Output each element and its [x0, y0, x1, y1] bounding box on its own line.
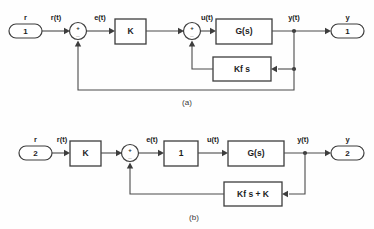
- wire-tap-to-feedback-b: [289, 153, 305, 194]
- inner-sum-a-plus: +: [190, 25, 194, 31]
- feedback-block-b-label: Kf s + K: [237, 189, 270, 199]
- plant-block-b-label: G(s): [248, 148, 265, 158]
- gain-block-a-label: K: [127, 26, 134, 36]
- arrow-into-feedback-block-b: [282, 191, 288, 197]
- gain-block-b-label: K: [82, 148, 89, 158]
- arrow-unity-to-plant-b: [222, 150, 228, 156]
- outer-sum-a-plus: +: [76, 25, 80, 31]
- diagram-canvas: 1 r r(t) + _ e(t) K + _ u(: [0, 0, 374, 229]
- signal-label-yt-a: y(t): [288, 13, 300, 22]
- arrow-sum-to-gain-a: [109, 28, 115, 34]
- input-port-b[interactable]: 2: [19, 146, 52, 160]
- signal-label-et-a: e(t): [94, 13, 106, 22]
- inner-sum-a[interactable]: + _: [184, 23, 201, 40]
- main-sum-b[interactable]: + _: [122, 145, 139, 162]
- outer-sum-a[interactable]: + _: [70, 23, 87, 40]
- output-port-b[interactable]: 2: [331, 146, 364, 160]
- arrow-outer-feedback-a: [75, 41, 81, 47]
- output-port-b-number: 2: [345, 149, 350, 158]
- subfigure-a: 1 r r(t) + _ e(t) K + _ u(: [9, 13, 364, 107]
- gain-block-b[interactable]: K: [70, 141, 101, 166]
- signal-label-rt-b: r(t): [57, 135, 68, 144]
- arrow-innersum-to-plant-a: [210, 28, 216, 34]
- inner-sum-a-minus: _: [189, 31, 194, 37]
- gain-block-a[interactable]: K: [115, 19, 146, 44]
- main-sum-b-minus: _: [127, 153, 132, 159]
- input-port-b-number: 2: [33, 149, 38, 158]
- output-port-a[interactable]: 1: [331, 24, 364, 38]
- outer-sum-a-minus: _: [75, 31, 80, 37]
- signal-label-ut-a: u(t): [201, 13, 214, 22]
- plant-block-a[interactable]: G(s): [216, 19, 272, 44]
- output-port-a-number: 1: [345, 27, 350, 36]
- input-port-a-number: 1: [23, 27, 28, 36]
- wire-feedback-to-sum-b: [130, 165, 224, 194]
- signal-label-yt-b: y(t): [297, 135, 309, 144]
- subfigure-b: 2 r r(t) K + _ e(t) 1 u(t): [19, 135, 364, 222]
- unity-block-b[interactable]: 1: [164, 141, 198, 166]
- input-port-a-label: r: [24, 13, 27, 22]
- unity-block-b-label: 1: [179, 148, 184, 158]
- output-port-b-label: y: [345, 135, 350, 144]
- feedback-block-a[interactable]: Kf s: [213, 57, 271, 81]
- signal-label-ut-b: u(t): [207, 135, 220, 144]
- input-port-b-label: r: [34, 135, 37, 144]
- feedback-block-b[interactable]: Kf s + K: [224, 182, 282, 206]
- wire-feedback-to-innersum-a: [192, 43, 213, 69]
- signal-label-rt-a: r(t): [51, 13, 62, 22]
- feedback-block-a-label: Kf s: [234, 64, 250, 74]
- output-port-a-label: y: [345, 13, 350, 22]
- arrow-sum-to-unity-b: [158, 150, 164, 156]
- plant-block-a-label: G(s): [236, 26, 253, 36]
- signal-label-et-b: e(t): [146, 135, 158, 144]
- plant-block-b[interactable]: G(s): [228, 141, 284, 166]
- caption-b: (b): [189, 213, 199, 222]
- arrow-to-output-port-a: [325, 28, 331, 34]
- input-port-a[interactable]: 1: [9, 24, 42, 38]
- arrow-into-feedback-block-a: [271, 66, 277, 72]
- arrow-input-to-gain-b: [64, 150, 70, 156]
- arrow-feedback-to-innersum-a: [189, 41, 195, 47]
- caption-a: (a): [182, 98, 192, 107]
- arrow-feedback-to-sum-b: [127, 163, 133, 169]
- block-diagram-figure: 1 r r(t) + _ e(t) K + _ u(: [0, 0, 374, 229]
- main-sum-b-plus: +: [128, 147, 132, 153]
- arrow-to-output-port-b: [325, 150, 331, 156]
